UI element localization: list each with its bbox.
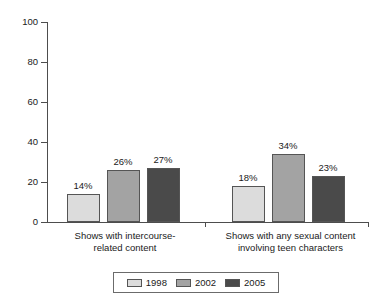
- legend-item-1998: 1998: [127, 278, 167, 288]
- bar-2005-intercourse: [147, 168, 180, 222]
- legend-label-1998: 1998: [146, 278, 167, 288]
- y-axis-label-20: 20: [8, 177, 38, 187]
- category-label-intercourse-line2: related content: [55, 242, 195, 254]
- bar-value-2002-intercourse: 26%: [101, 156, 145, 167]
- y-axis-label-100: 100: [8, 17, 38, 27]
- category-label-intercourse-line1: Shows with intercourse-: [75, 230, 176, 241]
- y-axis-tick-60: [41, 102, 47, 103]
- bar-value-1998-intercourse: 14%: [61, 180, 105, 191]
- legend-swatch-2005-icon: [225, 279, 240, 287]
- bar-value-2005-any-sexual: 23%: [306, 162, 350, 173]
- y-axis-label-60: 60: [8, 97, 38, 107]
- bar-value-2005-intercourse: 27%: [141, 154, 185, 165]
- category-label-any-sexual: Shows with any sexual content involving …: [208, 230, 373, 254]
- legend-item-2005: 2005: [225, 278, 265, 288]
- y-axis-label-40: 40: [8, 137, 38, 147]
- legend-item-2002: 2002: [176, 278, 216, 288]
- bar-value-2002-any-sexual: 34%: [266, 140, 310, 151]
- y-axis-label-0: 0: [8, 217, 38, 227]
- bar-2005-any-sexual: [312, 176, 345, 222]
- category-label-any-sexual-line2: involving teen characters: [208, 242, 373, 254]
- x-axis-end-tick: [368, 222, 369, 227]
- bar-2002-any-sexual: [272, 154, 305, 222]
- legend-swatch-1998-icon: [127, 279, 142, 287]
- y-axis-tick-20: [41, 182, 47, 183]
- bar-value-1998-any-sexual: 18%: [226, 172, 270, 183]
- bar-1998-intercourse: [67, 194, 100, 222]
- category-label-intercourse: Shows with intercourse- related content: [55, 230, 195, 254]
- legend-label-2005: 2005: [244, 278, 265, 288]
- y-axis-tick-100: [41, 22, 47, 23]
- category-label-any-sexual-line1: Shows with any sexual content: [226, 230, 356, 241]
- y-axis-tick-80: [41, 62, 47, 63]
- legend: 1998 2002 2005: [113, 272, 279, 293]
- legend-swatch-2002-icon: [176, 279, 191, 287]
- legend-label-2002: 2002: [195, 278, 216, 288]
- y-axis-line: [47, 22, 48, 223]
- x-axis-group-divider-tick: [205, 222, 206, 227]
- y-axis-label-80: 80: [8, 57, 38, 67]
- x-axis-line: [47, 222, 369, 223]
- y-axis-tick-40: [41, 142, 47, 143]
- bar-1998-any-sexual: [232, 186, 265, 222]
- bar-2002-intercourse: [107, 170, 140, 222]
- bar-chart: 100 80 60 40 20 0 14% 26% 27% 18% 34% 23…: [0, 0, 384, 305]
